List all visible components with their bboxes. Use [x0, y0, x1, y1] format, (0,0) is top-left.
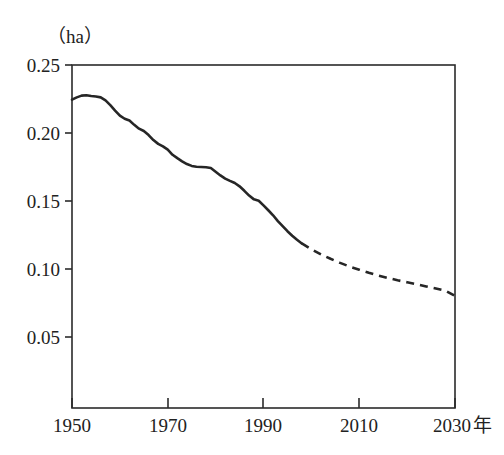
- series-line-projection: [302, 243, 455, 296]
- y-tick-label-020: 0.20: [27, 123, 60, 144]
- x-tick-label-2010: 2010: [340, 415, 378, 436]
- x-tick-labels: 1950 1970 1990 2010 2030 年: [53, 415, 492, 436]
- y-tick-label-025: 0.25: [27, 55, 60, 76]
- line-chart: 0.25 0.20 0.15 0.10 0.05 1950 1970 1990 …: [0, 0, 504, 455]
- x-tick-label-1950: 1950: [53, 415, 91, 436]
- chart-page: （ha） 0.25 0.20 0.15 0.10 0.05: [0, 0, 504, 455]
- x-tick-label-1970: 1970: [149, 415, 187, 436]
- y-tick-label-015: 0.15: [27, 191, 60, 212]
- series-line-actual: [72, 95, 302, 243]
- x-tick-marks: [72, 398, 455, 408]
- y-tick-labels: 0.25 0.20 0.15 0.10 0.05: [27, 55, 60, 348]
- plot-frame: [72, 65, 455, 408]
- y-tick-label-010: 0.10: [27, 259, 60, 280]
- y-tick-marks: [65, 65, 72, 337]
- x-axis-year-suffix-label: 年: [473, 415, 492, 436]
- x-tick-label-2030: 2030: [433, 415, 471, 436]
- x-tick-label-1990: 1990: [244, 415, 282, 436]
- y-tick-label-005: 0.05: [27, 327, 60, 348]
